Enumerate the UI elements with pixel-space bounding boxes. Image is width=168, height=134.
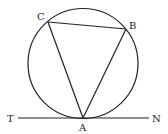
segment-ca — [48, 22, 83, 118]
label-c: C — [37, 11, 45, 22]
label-a: A — [78, 122, 87, 133]
label-t: T — [7, 113, 14, 124]
label-n: N — [152, 113, 161, 124]
segment-bc — [48, 22, 126, 29]
geometry-diagram: C B T N A — [0, 0, 168, 134]
label-b: B — [129, 20, 136, 31]
